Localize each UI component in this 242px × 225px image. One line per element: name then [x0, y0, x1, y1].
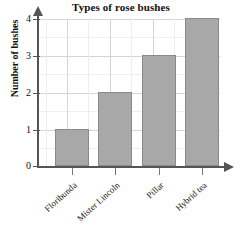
- x-label-floribunda: Floribunda: [17, 180, 79, 225]
- x-label-pillar: Pillar: [126, 180, 165, 217]
- x-axis-arrow-icon: [224, 162, 234, 172]
- y-axis-line: [37, 14, 39, 168]
- y-tick-2: [33, 93, 40, 94]
- y-tick-1: [33, 130, 40, 131]
- gridline-x-1: [46, 19, 47, 167]
- y-tick-3: [33, 56, 40, 57]
- y-tick-label-0: 0: [17, 160, 31, 171]
- y-tick-label-3: 3: [17, 50, 31, 61]
- y-tick-label-1: 1: [17, 124, 31, 135]
- x-tick-mister-lincoln: [115, 168, 116, 175]
- y-tick-0: [33, 166, 40, 167]
- x-tick-hybrid-tea: [202, 168, 203, 175]
- bar-hybrid-tea: [185, 18, 219, 166]
- y-tick-4: [33, 19, 40, 20]
- y-tick-label-2: 2: [17, 87, 31, 98]
- x-tick-floribunda: [72, 168, 73, 175]
- x-tick-pillar: [159, 168, 160, 175]
- x-axis-line: [37, 166, 226, 168]
- bar-chart: Types of rose bushes Number of bushes 0: [0, 0, 242, 225]
- y-tick-label-4: 4: [17, 13, 31, 24]
- y-axis-arrow-icon: [33, 6, 43, 16]
- bar-pillar: [142, 55, 176, 166]
- bar-floribunda: [55, 129, 89, 166]
- bar-mister-lincoln: [98, 92, 132, 166]
